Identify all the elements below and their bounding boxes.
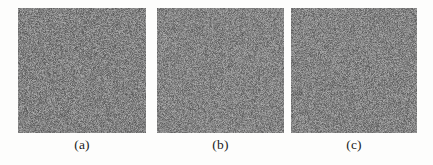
figure-root: (a) (b) (c) xyxy=(0,0,433,165)
panel-caption-b: (b) xyxy=(157,136,284,154)
panel-caption-a: (a) xyxy=(18,136,146,154)
caption-row: (a) (b) (c) xyxy=(0,136,433,158)
figure-panel-c xyxy=(291,8,417,133)
noise-image-b xyxy=(157,8,284,133)
noise-image-a xyxy=(18,8,146,133)
figure-panel-a xyxy=(18,8,146,133)
figure-panel-b xyxy=(157,8,284,133)
panel-caption-c: (c) xyxy=(291,136,417,154)
noise-image-c xyxy=(291,8,417,133)
